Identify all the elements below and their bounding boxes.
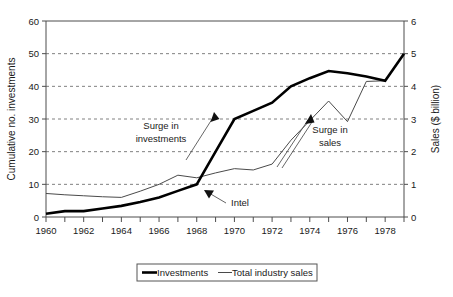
x-tick-label-1978: 1978 bbox=[375, 225, 396, 236]
annotation-surge-in-sales-line2: sales bbox=[319, 137, 341, 148]
annotation-surge-in-investments-line2: investments bbox=[136, 133, 187, 144]
x-tick-label-1964: 1964 bbox=[111, 225, 132, 236]
chart-legend: Investments Total industry sales bbox=[137, 264, 317, 281]
y2-tick-label-6: 6 bbox=[411, 16, 416, 27]
y-tick-label-50: 50 bbox=[28, 48, 39, 59]
annotation-surge-in-sales-line1: Surge in bbox=[312, 124, 347, 135]
y-tick-label-10: 10 bbox=[28, 179, 39, 190]
y2-tick-label-5: 5 bbox=[411, 48, 416, 59]
y-tick-label-40: 40 bbox=[28, 81, 39, 92]
y-tick-label-0: 0 bbox=[34, 212, 39, 223]
annotation-surge-in-investments-line1: Surge in bbox=[143, 120, 178, 131]
y2-tick-label-1: 1 bbox=[411, 179, 416, 190]
legend-label-investments: Investments bbox=[157, 267, 208, 278]
x-tick-label-1968: 1968 bbox=[186, 225, 207, 236]
x-tick-label-1970: 1970 bbox=[224, 225, 245, 236]
y-tick-label-30: 30 bbox=[28, 114, 39, 125]
chart-background bbox=[0, 0, 453, 297]
line-chart: 1960196219641966196819701972197419761978… bbox=[0, 0, 453, 297]
y2-tick-label-3: 3 bbox=[411, 114, 416, 125]
y2-tick-label-4: 4 bbox=[411, 81, 416, 92]
legend-label-total-industry-sales: Total industry sales bbox=[232, 267, 313, 278]
y-tick-label-20: 20 bbox=[28, 146, 39, 157]
y2-axis-title: Sales ($ billion) bbox=[430, 85, 441, 153]
chart-container: 1960196219641966196819701972197419761978… bbox=[0, 0, 453, 297]
y2-tick-label-0: 0 bbox=[411, 212, 416, 223]
x-tick-label-1962: 1962 bbox=[73, 225, 94, 236]
y-axis-title: Cumulative no. investments bbox=[6, 58, 17, 181]
x-tick-label-1960: 1960 bbox=[35, 225, 56, 236]
y2-tick-label-2: 2 bbox=[411, 146, 416, 157]
x-tick-label-1976: 1976 bbox=[337, 225, 358, 236]
x-tick-label-1974: 1974 bbox=[299, 225, 320, 236]
x-tick-label-1966: 1966 bbox=[148, 225, 169, 236]
annotation-intel-label: Intel bbox=[231, 197, 249, 208]
x-tick-label-1972: 1972 bbox=[262, 225, 283, 236]
y-tick-label-60: 60 bbox=[28, 16, 39, 27]
